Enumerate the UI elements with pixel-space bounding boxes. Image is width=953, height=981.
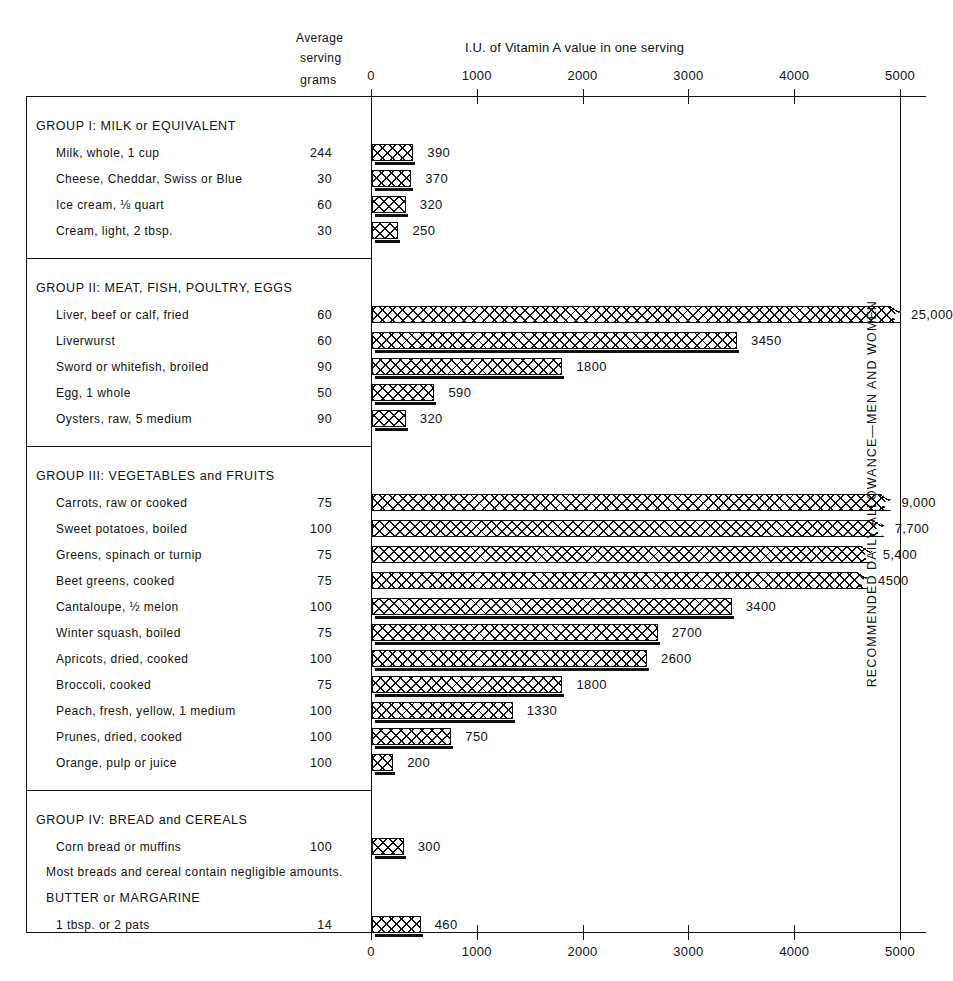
- axis-tick-label: 3000: [673, 68, 703, 83]
- bar-value-label: 320: [420, 197, 443, 212]
- serving-grams-value: 90: [272, 412, 332, 426]
- bar-value-label: 300: [418, 839, 441, 854]
- group-title: GROUP I: MILK or EQUIVALENT: [36, 119, 236, 133]
- item-label: Egg, 1 whole: [56, 386, 131, 400]
- bar-value-label: 750: [465, 729, 488, 744]
- broken-bar-end-icon: [878, 493, 893, 511]
- value-bar: [372, 624, 658, 641]
- item-label: Greens, spinach or turnip: [56, 548, 202, 562]
- axis-tick: [477, 925, 478, 940]
- bar-value-label: 1800: [576, 677, 607, 692]
- value-bar: [372, 572, 868, 589]
- item-label: Winter squash, boiled: [56, 626, 181, 640]
- axis-tick: [900, 925, 901, 940]
- item-label: Milk, whole, 1 cup: [56, 146, 159, 160]
- axis-tick: [583, 925, 584, 940]
- value-bar: [372, 170, 411, 187]
- serving-grams-value: 60: [272, 334, 332, 348]
- value-bar: [372, 728, 451, 745]
- item-label: Prunes, dried, cooked: [56, 730, 182, 744]
- bar-value-label: 2600: [661, 651, 692, 666]
- item-label: Liverwurst: [56, 334, 115, 348]
- serving-grams-value: 60: [272, 198, 332, 212]
- bar-value-label: 2700: [672, 625, 703, 640]
- average-label: Average: [296, 28, 366, 48]
- bar-value-label: 320: [420, 411, 443, 426]
- serving-grams-value: 244: [272, 146, 332, 160]
- sub-group-title: BUTTER or MARGARINE: [46, 891, 200, 905]
- serving-grams-value: 100: [272, 704, 332, 718]
- grams-label: grams: [300, 73, 337, 87]
- axis-tick-label: 4000: [779, 68, 809, 83]
- group-title: GROUP II: MEAT, FISH, POULTRY, EGGS: [36, 281, 292, 295]
- item-label: Cream, light, 2 tbsp.: [56, 224, 173, 238]
- axis-tick: [688, 89, 689, 104]
- axis-tick: [688, 925, 689, 940]
- serving-grams-value: 100: [272, 840, 332, 854]
- axis-tick: [583, 89, 584, 104]
- serving-grams-value: 75: [272, 678, 332, 692]
- bar-value-label: 1330: [527, 703, 558, 718]
- value-bar: [372, 494, 891, 511]
- axis-tick-label: 1000: [462, 68, 492, 83]
- serving-grams-value: 75: [272, 626, 332, 640]
- axis-tick-label: 0: [367, 944, 375, 959]
- item-label: Oysters, raw, 5 medium: [56, 412, 192, 426]
- serving-label: serving: [300, 48, 366, 68]
- value-bar: [372, 598, 732, 615]
- serving-grams-value: 100: [272, 522, 332, 536]
- table-left-border: [26, 96, 27, 932]
- value-bar: [372, 676, 562, 693]
- serving-grams-value: 50: [272, 386, 332, 400]
- axis-tick-label: 5000: [885, 944, 915, 959]
- item-label: Sweet potatoes, boiled: [56, 522, 187, 536]
- chart-title: I.U. of Vitamin A value in one serving: [465, 40, 684, 55]
- serving-grams-value: 30: [272, 172, 332, 186]
- axis-tick: [900, 89, 901, 104]
- item-label: 1 tbsp. or 2 pats: [56, 918, 150, 932]
- bar-value-label: 390: [427, 145, 450, 160]
- bar-value-label: 460: [435, 917, 458, 932]
- bar-value-label: 250: [412, 223, 435, 238]
- item-label: Cheese, Cheddar, Swiss or Blue: [56, 172, 242, 186]
- serving-grams-value: 75: [272, 496, 332, 510]
- axis-tick: [477, 89, 478, 104]
- value-bar: [372, 410, 406, 427]
- value-bar: [372, 384, 434, 401]
- bar-value-label: 5,400: [883, 547, 918, 562]
- serving-grams-value: 75: [272, 548, 332, 562]
- group-title: GROUP III: VEGETABLES and FRUITS: [36, 469, 275, 483]
- value-bar: [372, 916, 421, 933]
- value-bar: [372, 838, 404, 855]
- item-label: Corn bread or muffins: [56, 840, 181, 854]
- serving-grams-value: 90: [272, 360, 332, 374]
- average-serving-header: Average serving: [296, 28, 366, 68]
- axis-tick-label: 0: [367, 68, 375, 83]
- group-title: GROUP IV: BREAD and CEREALS: [36, 813, 247, 827]
- axis-tick: [794, 89, 795, 104]
- item-label: Ice cream, ⅛ quart: [56, 198, 164, 212]
- bar-value-label: 3450: [751, 333, 782, 348]
- axis-tick: [371, 89, 372, 104]
- axis-tick-label: 2000: [568, 944, 598, 959]
- bar-value-label: 590: [448, 385, 471, 400]
- serving-grams-value: 100: [272, 600, 332, 614]
- value-bar: [372, 546, 873, 563]
- value-bar: [372, 650, 647, 667]
- item-label: Carrots, raw or cooked: [56, 496, 187, 510]
- serving-grams-value: 100: [272, 730, 332, 744]
- value-bar: [372, 144, 413, 161]
- item-label: Peach, fresh, yellow, 1 medium: [56, 704, 236, 718]
- rda-reference-line: [900, 96, 901, 932]
- bar-value-label: 1800: [576, 359, 607, 374]
- item-label: Liver, beef or calf, fried: [56, 308, 189, 322]
- value-bar: [372, 702, 513, 719]
- value-bar: [372, 306, 901, 323]
- group-note: Most breads and cereal contain negligibl…: [46, 865, 343, 879]
- serving-grams-value: 100: [272, 756, 332, 770]
- axis-tick-label: 1000: [462, 944, 492, 959]
- value-bar: [372, 754, 393, 771]
- bar-value-label: 3400: [746, 599, 777, 614]
- serving-grams-value: 75: [272, 574, 332, 588]
- item-label: Apricots, dried, cooked: [56, 652, 188, 666]
